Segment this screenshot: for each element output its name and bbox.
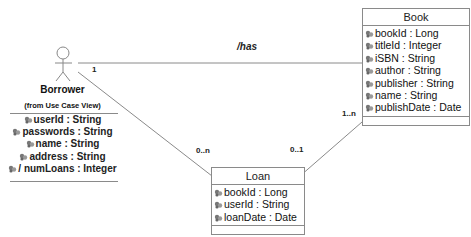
attribute-icon [365, 80, 374, 88]
attribute-icon [12, 128, 21, 136]
actor-name: Borrower [0, 84, 125, 95]
class-book-title: Book [363, 9, 469, 26]
attribute-icon [214, 189, 223, 197]
class-loan-title: Loan [212, 168, 304, 185]
actor-attribute: / numLoans : Integer [0, 163, 125, 175]
attribute-icon [8, 165, 17, 173]
multiplicity-loan-book: 0..1 [290, 145, 303, 154]
class-attribute: iSBN : String [365, 52, 469, 64]
class-book-operations [363, 117, 469, 125]
attribute-icon [19, 153, 28, 161]
class-attribute: bookId : Long [365, 27, 469, 39]
actor-attribute: userId : String [0, 114, 125, 126]
class-loan-attributes: bookId : Long userId : String loanDate :… [212, 185, 304, 226]
class-attribute: userId : String [214, 198, 304, 210]
attribute-icon [214, 214, 223, 222]
attribute-icon [24, 116, 33, 124]
actor-attribute: name : String [0, 138, 125, 150]
class-attribute: publishDate : Date [365, 101, 469, 113]
attribute-icon [365, 92, 374, 100]
association-has-label: /has [237, 41, 257, 52]
actor-subtitle: (from Use Case View) [0, 101, 125, 110]
multiplicity-book-loan: 1..n [342, 109, 356, 118]
attribute-icon [26, 140, 35, 148]
attribute-icon [214, 201, 223, 209]
class-attribute: loanDate : Date [214, 211, 304, 223]
actor-attribute: address : String [0, 151, 125, 163]
attribute-icon [365, 42, 374, 50]
association-loan-book-line [300, 122, 362, 176]
actor-attribute: passwords : String [0, 126, 125, 138]
attribute-icon [365, 55, 374, 63]
attribute-icon [365, 104, 374, 112]
class-attribute: name : String [365, 89, 469, 101]
class-loan[interactable]: Loan bookId : Long userId : String loanD… [211, 167, 305, 235]
attribute-icon [365, 30, 374, 38]
class-attribute: author : String [365, 64, 469, 76]
class-attribute: bookId : Long [214, 186, 304, 198]
attribute-icon [365, 67, 374, 75]
actor-attributes: userId : String passwords : String name … [0, 114, 125, 175]
class-loan-operations [212, 226, 304, 234]
multiplicity-loan-borrower: 0..n [196, 146, 210, 155]
class-book-attributes: bookId : Long titleId : Integer iSBN : S… [363, 26, 469, 117]
multiplicity-borrower-has: 1 [92, 65, 96, 74]
actor-icon [55, 47, 72, 81]
class-book[interactable]: Book bookId : Long titleId : Integer iSB… [362, 8, 470, 126]
actor-divider-bottom [10, 181, 118, 182]
class-attribute: publisher : String [365, 77, 469, 89]
class-attribute: titleId : Integer [365, 39, 469, 51]
